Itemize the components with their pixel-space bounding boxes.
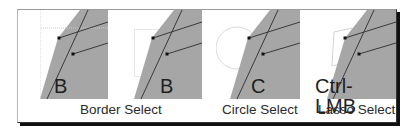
caption-lasso-select: Lasso Select [318, 102, 395, 117]
panel-border-select-crosshair: B [40, 10, 108, 100]
vertex-dot [262, 53, 265, 56]
shortcut-key-label: B [160, 76, 173, 96]
mesh-illustration [40, 10, 108, 100]
panel-circle-select: C [216, 10, 300, 100]
vertex-dot [72, 53, 75, 56]
shortcut-key-label: C [251, 76, 265, 96]
vertex-dot [152, 37, 155, 40]
vertex-dot [248, 37, 251, 40]
caption-border-select: Border Select [80, 102, 162, 117]
vertex-dot [358, 53, 361, 56]
panel-border-select-rectangle: B [134, 10, 202, 100]
vertex-dot [344, 37, 347, 40]
caption-circle-select: Circle Select [222, 102, 298, 117]
vertex-dot [58, 37, 61, 40]
vertex-dot [166, 53, 169, 56]
panel-lasso-select: Ctrl- LMB [312, 10, 396, 100]
shortcut-key-label: B [54, 76, 67, 96]
